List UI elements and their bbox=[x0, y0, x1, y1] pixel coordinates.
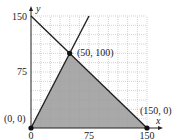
label-origin: (0, 0) bbox=[4, 113, 26, 125]
y-axis-arrow-icon bbox=[29, 6, 33, 11]
feasible-region-chart: 150 75 0 75 150 y x (0, 0) (50, 100) (15… bbox=[0, 0, 175, 140]
vertex-point bbox=[67, 51, 72, 56]
label-intersection: (50, 100) bbox=[77, 47, 114, 59]
x-tick-0: 0 bbox=[29, 130, 34, 140]
x-tick-150: 150 bbox=[140, 130, 155, 140]
label-x-intercept: (150, 0) bbox=[140, 105, 172, 117]
x-tick-75: 75 bbox=[84, 130, 94, 140]
y-axis-label: y bbox=[35, 3, 41, 14]
y-tick-75: 75 bbox=[17, 66, 27, 77]
x-axis-label: x bbox=[155, 115, 161, 126]
y-tick-150: 150 bbox=[12, 11, 27, 22]
x-axis-arrow-icon bbox=[158, 126, 163, 130]
